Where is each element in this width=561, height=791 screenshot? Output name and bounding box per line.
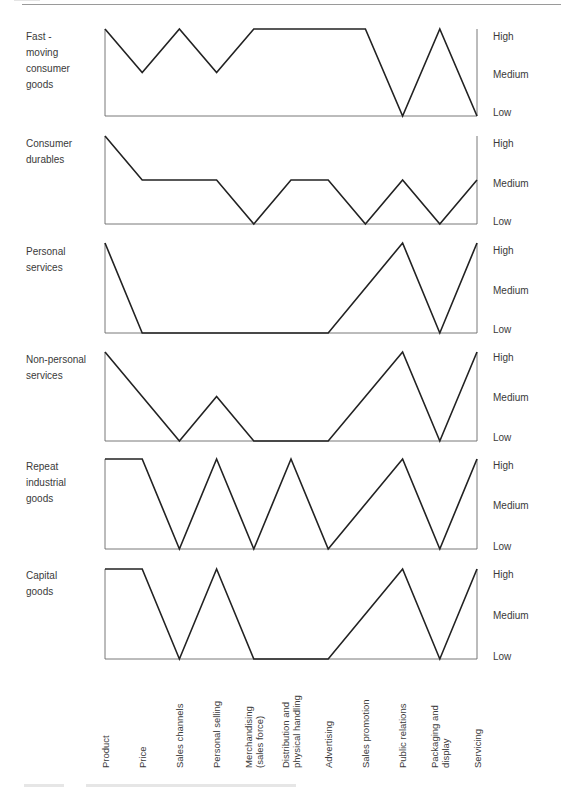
profile-line — [105, 29, 477, 116]
panel-4 — [105, 352, 477, 441]
category-label: Sales channels — [174, 704, 185, 768]
category-label: Advertising — [323, 721, 334, 768]
panel-2 — [105, 136, 477, 224]
profile-line — [105, 352, 477, 441]
profile-line — [105, 243, 477, 333]
category-label: Packaging and display — [429, 705, 451, 768]
category-label: Personal selling — [211, 701, 222, 768]
profile-line — [105, 459, 477, 549]
category-label: Distribution and physical handling — [280, 695, 302, 768]
category-label: Merchandising (sales force) — [243, 706, 265, 768]
category-label: Public relations — [397, 704, 408, 768]
caption-faint — [24, 784, 64, 787]
panel-3 — [105, 243, 477, 333]
profile-line — [105, 569, 477, 659]
category-label: Product — [100, 735, 111, 768]
category-label: Sales promotion — [360, 699, 371, 768]
category-label: Servicing — [472, 729, 483, 768]
profile-line — [105, 136, 477, 224]
category-label: Price — [137, 746, 148, 768]
panel-5 — [105, 459, 477, 549]
panel-1 — [105, 29, 477, 116]
panel-6 — [105, 569, 477, 659]
marketing-mix-chart — [0, 0, 561, 791]
caption-faint — [86, 784, 296, 787]
